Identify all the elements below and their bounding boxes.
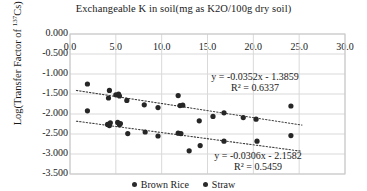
data-point-brown-rice — [288, 103, 293, 108]
data-point-brown-rice — [142, 102, 147, 107]
data-point-straw — [143, 129, 148, 134]
chart-container: Exchangeable K in soil(mg as K2O/100g dr… — [0, 0, 367, 191]
data-point-brown-rice — [85, 81, 90, 86]
data-point-straw — [108, 120, 113, 125]
data-point-brown-rice — [180, 103, 185, 108]
data-point-straw — [254, 139, 259, 144]
data-point-brown-rice — [197, 118, 202, 123]
equation-text: y = -0.0352x - 1.3859 — [211, 71, 298, 82]
legend-marker-icon — [203, 182, 208, 187]
legend-marker-icon — [132, 182, 137, 187]
data-point-brown-rice — [155, 105, 160, 110]
data-point-brown-rice — [124, 98, 129, 103]
legend-item-label: Brown Rice — [141, 179, 189, 190]
data-point-brown-rice — [107, 88, 112, 93]
data-point-brown-rice — [221, 110, 226, 115]
legend-item[interactable]: Brown Rice — [132, 179, 189, 190]
data-point-straw — [187, 148, 192, 153]
data-point-brown-rice — [241, 115, 246, 120]
data-point-brown-rice — [253, 117, 258, 122]
equation-text: y = -0.0306x - 2.1582 — [214, 150, 301, 161]
data-point-straw — [178, 131, 183, 136]
data-point-brown-rice — [176, 93, 181, 98]
data-point-straw — [155, 133, 160, 138]
r-squared-text: R² = 0.5459 — [214, 161, 301, 172]
chart-legend: Brown RiceStraw — [0, 179, 367, 190]
data-point-straw — [221, 139, 226, 144]
legend-item-label: Straw — [212, 179, 235, 190]
data-point-brown-rice — [210, 114, 215, 119]
data-point-straw — [288, 133, 293, 138]
legend-item[interactable]: Straw — [203, 179, 235, 190]
trendline-brown-rice — [76, 90, 302, 125]
data-point-straw — [125, 131, 130, 136]
trendline-equation-straw: y = -0.0306x - 2.1582R² = 0.5459 — [214, 150, 301, 172]
data-point-straw — [198, 143, 203, 148]
data-point-brown-rice — [106, 95, 111, 100]
data-point-straw — [85, 108, 90, 113]
trendline-equation-brown-rice: y = -0.0352x - 1.3859R² = 0.6337 — [211, 71, 298, 93]
plot-area — [0, 0, 367, 191]
r-squared-text: R² = 0.6337 — [211, 82, 298, 93]
data-point-brown-rice — [117, 93, 122, 98]
data-point-straw — [118, 121, 123, 126]
